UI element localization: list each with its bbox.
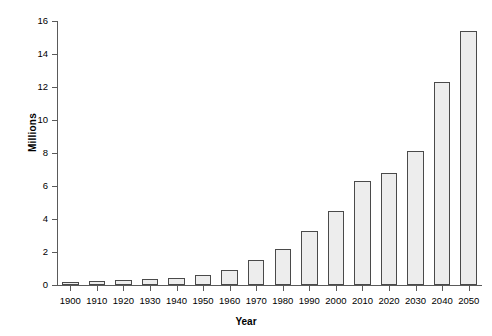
x-axis-tick [283,285,284,291]
bar [168,278,184,285]
x-axis-tick [150,285,151,291]
bar [301,231,317,285]
y-axis-tick [52,186,58,187]
x-axis-tick [123,285,124,291]
y-axis-tick [52,87,58,88]
y-axis-tick [52,120,58,121]
bar [381,173,397,285]
bar [248,260,264,285]
x-axis-line [57,285,482,286]
y-axis-tick-label: 6 [22,181,48,190]
bar [115,280,131,285]
x-axis-tick [362,285,363,291]
y-axis-tick-label: 4 [22,214,48,223]
y-axis-tick-label: 14 [22,49,48,58]
bar [275,249,291,285]
x-axis-tick [70,285,71,291]
y-axis-tick [52,54,58,55]
y-axis-tick-label: 12 [22,82,48,91]
y-axis-tick [52,285,58,286]
x-axis-tick [336,285,337,291]
bar [221,270,237,285]
x-axis-tick [177,285,178,291]
x-axis-tick-label: 2050 [449,295,489,306]
y-axis-tick [52,153,58,154]
x-axis-tick [389,285,390,291]
x-axis-title: Year [0,316,492,327]
y-axis-tick [52,21,58,22]
bar [354,181,370,285]
x-axis-tick [442,285,443,291]
bar [407,151,423,285]
y-axis-tick-label: 10 [22,115,48,124]
bar [195,275,211,285]
bar [460,31,476,285]
bar [142,279,158,285]
y-axis-tick-label: 2 [22,247,48,256]
x-axis-tick [469,285,470,291]
y-axis-tick-label: 16 [22,16,48,25]
x-axis-tick [230,285,231,291]
bar [328,211,344,285]
bar [62,282,78,285]
y-axis-tick [52,252,58,253]
x-axis-tick [256,285,257,291]
bar-chart: Millions 0246810121416 19001910192019301… [0,0,492,336]
x-axis-tick [203,285,204,291]
x-axis-tick [309,285,310,291]
x-axis-tick [97,285,98,291]
x-axis-tick [416,285,417,291]
y-axis-tick-label: 0 [22,280,48,289]
bar [89,281,105,285]
y-axis-tick [52,219,58,220]
bar [434,82,450,285]
y-axis-tick-label: 8 [22,148,48,157]
